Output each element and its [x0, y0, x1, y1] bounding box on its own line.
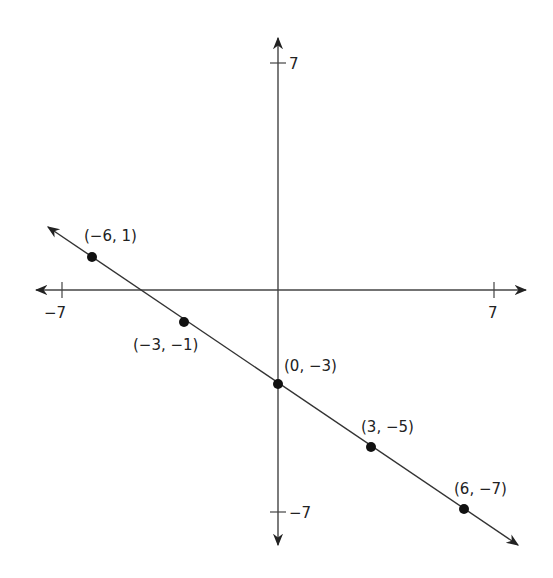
point-label: (0, −3) — [284, 357, 337, 375]
graph-line — [48, 227, 518, 545]
data-point — [179, 317, 189, 327]
y-tick-label-max: 7 — [289, 55, 299, 73]
point-label: (3, −5) — [361, 418, 414, 436]
data-point — [273, 379, 283, 389]
x-tick-label-max: 7 — [488, 304, 498, 322]
data-point — [87, 252, 97, 262]
data-point — [366, 442, 376, 452]
point-label: (−3, −1) — [133, 336, 198, 354]
x-tick-label-min: −7 — [44, 304, 66, 322]
coordinate-plane: −7 7 7 −7 (−6, 1) (−3, −1) (0, −3) (3, −… — [0, 0, 553, 578]
data-point — [459, 504, 469, 514]
y-tick-label-min: −7 — [289, 504, 311, 522]
point-label: (6, −7) — [454, 480, 507, 498]
point-label: (−6, 1) — [84, 227, 137, 245]
